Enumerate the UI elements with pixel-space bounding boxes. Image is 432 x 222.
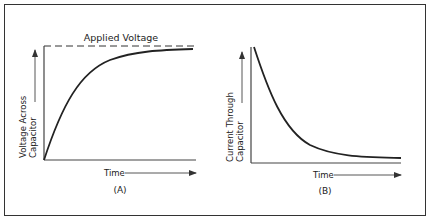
y-label-b-line1: Current Through xyxy=(225,92,235,162)
caption-b: (B) xyxy=(318,186,331,196)
x-label-b: Time xyxy=(312,170,334,180)
y-label-a-line2: Capacitor xyxy=(28,117,38,158)
decaying-current-curve xyxy=(254,47,401,158)
figure-canvas: Applied Voltage Voltage Across Capacitor… xyxy=(0,0,432,222)
applied-voltage-label: Applied Voltage xyxy=(84,32,159,43)
x-label-a: Time xyxy=(103,168,125,178)
y-label-b-line2: Capacitor xyxy=(235,121,245,162)
charging-voltage-curve xyxy=(44,49,193,160)
panel-b: Current Through Capacitor Time (B) xyxy=(225,47,401,196)
y-label-a-line1: Voltage Across xyxy=(18,95,28,158)
panel-a: Applied Voltage Voltage Across Capacitor… xyxy=(18,32,196,195)
caption-a: (A) xyxy=(113,185,126,195)
